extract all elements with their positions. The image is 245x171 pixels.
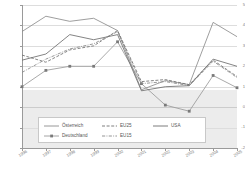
legend-item-deutschland[interactable]: Deutschland bbox=[43, 131, 88, 141]
data-point-marker bbox=[164, 104, 167, 107]
legend-swatch-icon bbox=[101, 122, 118, 130]
legend-item-eu25[interactable]: EU25 bbox=[101, 121, 132, 131]
legend-swatch-icon bbox=[101, 132, 118, 140]
data-point-marker bbox=[188, 110, 191, 113]
legend-label: USA bbox=[171, 124, 180, 129]
data-point-marker bbox=[92, 65, 95, 68]
chart-legend: ÖsterreichEU25USADeutschlandEU15 bbox=[38, 117, 206, 143]
legend-label: Österreich bbox=[62, 124, 83, 129]
series-line-deutschland bbox=[22, 42, 237, 111]
legend-item-usa[interactable]: USA bbox=[152, 121, 180, 131]
series-lines bbox=[0, 0, 245, 171]
data-point-marker bbox=[116, 40, 119, 43]
legend-item-eu15[interactable]: EU15 bbox=[101, 131, 132, 141]
legend-swatch-icon bbox=[152, 122, 169, 130]
legend-swatch-icon bbox=[43, 122, 60, 130]
line-chart: 543210-1-2 19961997199819992000200120022… bbox=[0, 0, 245, 171]
data-point-marker bbox=[212, 74, 215, 77]
legend-label: Deutschland bbox=[62, 134, 88, 139]
series-line-österreich bbox=[22, 16, 237, 90]
data-point-marker bbox=[44, 69, 47, 72]
data-point-marker bbox=[68, 65, 71, 68]
series-line-eu25 bbox=[22, 31, 237, 85]
data-point-marker bbox=[21, 85, 24, 88]
legend-label: EU25 bbox=[120, 124, 132, 129]
legend-label: EU15 bbox=[120, 134, 132, 139]
series-line-eu15 bbox=[22, 32, 237, 86]
legend-item-österreich[interactable]: Österreich bbox=[43, 121, 83, 131]
data-point-marker bbox=[236, 86, 239, 89]
legend-swatch-icon bbox=[43, 132, 60, 140]
